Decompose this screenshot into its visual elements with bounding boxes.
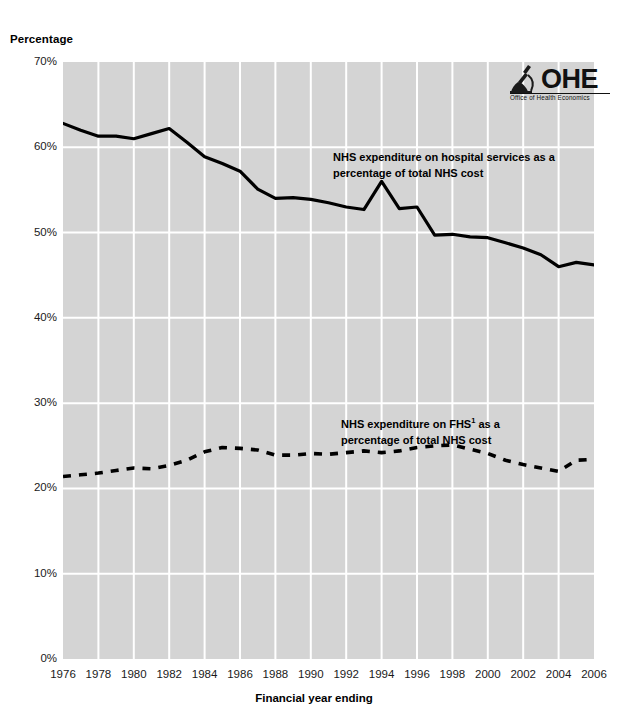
x-tick-1978: 1978	[78, 668, 118, 680]
x-tick-2002: 2002	[503, 668, 543, 680]
ohe-logo: OHE Office of Health Economics	[508, 62, 612, 104]
y-tick-60: 60%	[6, 140, 57, 152]
annotation-hospital: NHS expenditure on hospital services as …	[333, 150, 555, 182]
microscope-icon	[508, 63, 542, 95]
x-tick-1980: 1980	[114, 668, 154, 680]
x-tick-1988: 1988	[255, 668, 295, 680]
x-tick-1994: 1994	[362, 668, 402, 680]
ohe-logo-subtitle: Office of Health Economics	[510, 94, 590, 101]
annotation-hospital-line1: NHS expenditure on hospital services as …	[333, 150, 555, 166]
ohe-logo-wordmark: OHE	[541, 64, 598, 95]
x-tick-1992: 1992	[326, 668, 366, 680]
annotation-fhs-text-post: as a	[475, 418, 499, 430]
x-tick-1982: 1982	[149, 668, 189, 680]
y-tick-40: 40%	[6, 311, 57, 323]
y-tick-30: 30%	[6, 396, 57, 408]
x-tick-1984: 1984	[185, 668, 225, 680]
y-tick-10: 10%	[6, 567, 57, 579]
x-tick-1990: 1990	[291, 668, 331, 680]
y-tick-70: 70%	[6, 55, 57, 67]
series-line-fhs	[63, 445, 594, 477]
chart-figure: Percentage 0%10%20%30%40%50%60%70% NHS e…	[0, 0, 628, 724]
x-axis-title: Financial year ending	[0, 692, 628, 704]
series-line-hospital	[63, 123, 594, 266]
x-tick-2004: 2004	[539, 668, 579, 680]
annotation-fhs-text-pre: NHS expenditure on FHS	[341, 418, 471, 430]
y-tick-50: 50%	[6, 226, 57, 238]
annotation-hospital-line2: percentage of total NHS cost	[333, 166, 555, 182]
x-tick-1998: 1998	[432, 668, 472, 680]
annotation-fhs-line2: percentage of total NHS cost	[341, 433, 500, 449]
x-tick-2006: 2006	[574, 668, 614, 680]
annotation-fhs-line1: NHS expenditure on FHS1 as a	[341, 417, 500, 433]
y-tick-0: 0%	[6, 652, 57, 664]
annotation-fhs: NHS expenditure on FHS1 as a percentage …	[341, 417, 500, 449]
x-tick-2000: 2000	[468, 668, 508, 680]
x-tick-1976: 1976	[43, 668, 83, 680]
x-tick-1996: 1996	[397, 668, 437, 680]
x-tick-1986: 1986	[220, 668, 260, 680]
y-tick-20: 20%	[6, 481, 57, 493]
